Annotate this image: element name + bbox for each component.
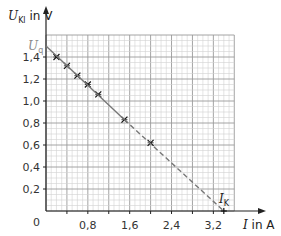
svg-text:0,8: 0,8: [23, 117, 41, 130]
origin-label: 0: [33, 216, 40, 229]
svg-text:0,8: 0,8: [79, 219, 97, 232]
svg-text:1,2: 1,2: [23, 73, 41, 86]
chart: 0,81,62,43,20,20,40,60,81,01,21,4 UKl in…: [0, 0, 281, 236]
svg-text:0,4: 0,4: [23, 161, 41, 174]
svg-text:3,2: 3,2: [205, 219, 223, 232]
svg-text:0,6: 0,6: [23, 139, 41, 152]
svg-text:1,0: 1,0: [23, 95, 41, 108]
axes: [43, 6, 266, 214]
x-axis-label: I in A: [242, 218, 275, 232]
svg-text:1,6: 1,6: [121, 219, 139, 232]
svg-text:0,2: 0,2: [23, 183, 41, 196]
grid: [46, 35, 234, 211]
y-axis-label: UKl in V: [8, 9, 53, 25]
uq-label: Uq: [28, 39, 43, 55]
svg-text:2,4: 2,4: [163, 219, 181, 232]
x-axis-arrow-icon: [258, 208, 266, 214]
